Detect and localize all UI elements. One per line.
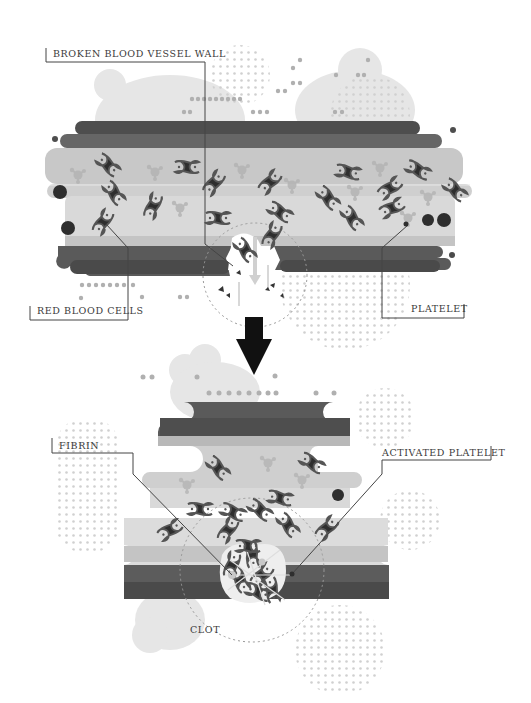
label-fibrin: FIBRIN bbox=[59, 440, 99, 451]
label-activated-platelet: ACTIVATED PLATELET bbox=[382, 447, 505, 458]
label-red-blood-cells: RED BLOOD CELLS bbox=[37, 305, 144, 316]
label-broken-blood-vessel-wall: BROKEN BLOOD VESSEL WALL bbox=[53, 48, 226, 59]
label-platelet: PLATELET bbox=[411, 303, 468, 314]
label-clot: CLOT bbox=[190, 624, 220, 635]
vessel-wall-top bbox=[52, 121, 456, 148]
bottom-panel-clot bbox=[52, 344, 491, 695]
blood-clot-diagram: BROKEN BLOOD VESSEL WALL RED BLOOD CELLS… bbox=[0, 0, 531, 703]
